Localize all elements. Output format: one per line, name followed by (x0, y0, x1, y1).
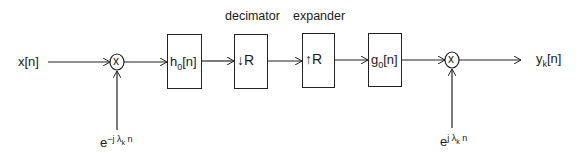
output-label: yk[n] (536, 52, 561, 65)
block-g0-label: g0[n] (371, 53, 398, 66)
down-arrow-icon: ↓ (237, 52, 244, 68)
multiplier-symbol-2: x (448, 53, 454, 65)
input-label: x[n] (18, 55, 39, 68)
multiplier-symbol-1: x (113, 55, 119, 67)
block-decimator-label: ↓R (237, 53, 254, 67)
decimator-factor: R (244, 52, 254, 68)
demod-exp-post: n (125, 134, 133, 144)
demodulator-exponential-label: e−j λk n (100, 136, 133, 149)
demod-exp-pre: −j λ (107, 134, 121, 144)
h0-arg: [n] (182, 54, 196, 69)
block-expander-label: ↑R (305, 52, 322, 66)
decimator-title: decimator (225, 10, 280, 23)
expander-title: expander (293, 10, 345, 23)
modulator-exponential-label: ej λk n (440, 135, 467, 148)
input-label-arg: [n] (25, 54, 39, 69)
mod-exp-post: n (460, 133, 468, 143)
up-arrow-icon: ↑ (305, 51, 312, 67)
connections (0, 0, 581, 153)
mod-exp-pre: j λ (447, 133, 456, 143)
g0-arg: [n] (383, 52, 397, 67)
block-h0-label: h0[n] (170, 55, 197, 68)
output-label-arg: [n] (547, 51, 561, 66)
expander-factor: R (312, 51, 322, 67)
